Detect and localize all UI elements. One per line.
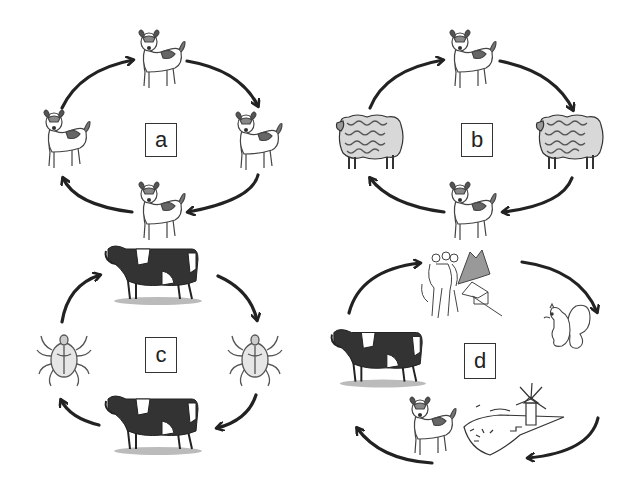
dog-icon <box>444 28 500 92</box>
dog-icon <box>404 395 460 459</box>
dog-icon <box>38 108 94 172</box>
cow-icon <box>328 325 432 393</box>
arrow-b-1 <box>370 60 443 108</box>
arrow-a-2 <box>187 61 258 106</box>
arrow-c-1 <box>62 275 100 322</box>
windmill-island-icon <box>460 383 572 463</box>
arrow-b-4 <box>370 178 444 212</box>
cow-icon <box>102 243 208 309</box>
transmission-cycles-diagram: a b c d <box>0 0 642 487</box>
panel-label-c: c <box>145 337 177 373</box>
arrow-b-3 <box>503 178 572 212</box>
arrow-a-4 <box>63 178 132 212</box>
arrow-c-4 <box>61 400 99 425</box>
cow-icon <box>102 393 208 459</box>
arrow-a-3 <box>188 175 258 212</box>
arrow-c-2 <box>218 276 257 320</box>
dog-icon <box>230 110 286 174</box>
tick-icon <box>226 328 284 388</box>
squirrel-icon <box>540 300 592 352</box>
dog-icon <box>444 180 500 244</box>
panel-label-d: d <box>464 343 496 379</box>
tick-icon <box>35 328 93 388</box>
arrow-c-3 <box>217 395 256 428</box>
panel-label-a: a <box>145 123 177 157</box>
hikers-mountains-icon <box>418 246 506 324</box>
arrow-d-1 <box>349 263 420 313</box>
sheep-icon <box>535 113 607 173</box>
sheep-icon <box>335 113 407 173</box>
panel-label-b: b <box>461 123 493 157</box>
dog-icon <box>133 28 189 92</box>
dog-icon <box>133 180 189 244</box>
arrow-b-2 <box>500 61 573 110</box>
arrow-a-1 <box>62 60 133 108</box>
